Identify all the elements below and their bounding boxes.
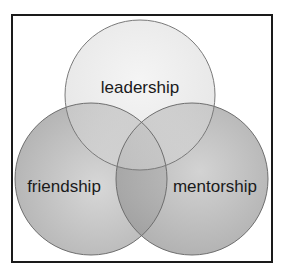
- label-leadership: leadership: [101, 78, 179, 97]
- label-friendship: friendship: [27, 177, 101, 196]
- label-mentorship: mentorship: [173, 177, 257, 196]
- venn-diagram: leadership friendship mentorship: [0, 0, 281, 272]
